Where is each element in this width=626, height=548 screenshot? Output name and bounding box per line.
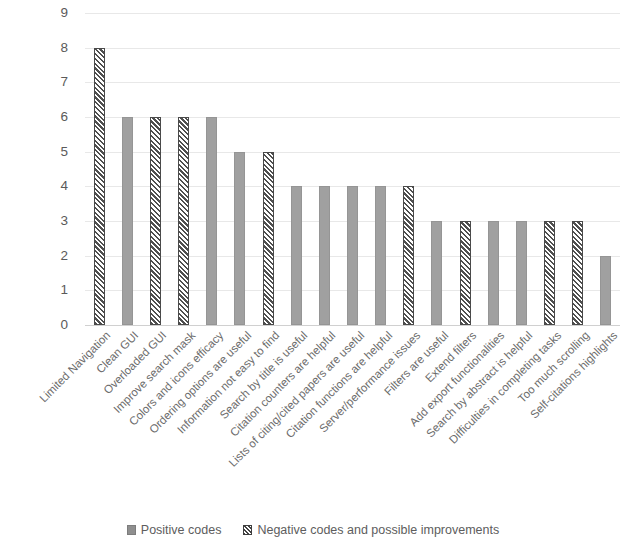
bar-chart: 0123456789 Limited NavigationClean GUIOv… (0, 0, 626, 548)
bar (263, 152, 274, 325)
legend-item[interactable]: Positive codes (127, 524, 222, 537)
y-axis-tick: 3 (60, 214, 68, 228)
y-axis-tick: 5 (60, 145, 68, 159)
y-axis-tick: 7 (60, 76, 68, 90)
legend-label: Negative codes and possible improvements (257, 524, 499, 537)
bar (403, 186, 414, 325)
bar (600, 256, 611, 325)
bar (234, 152, 245, 325)
bar (291, 186, 302, 325)
bar (206, 117, 217, 325)
bar-group (85, 13, 620, 325)
y-axis-tick: 6 (60, 110, 68, 124)
bar (431, 221, 442, 325)
plot-area (85, 13, 620, 325)
y-axis-tick: 8 (60, 41, 68, 55)
y-axis-tick: 2 (60, 249, 68, 263)
bar (488, 221, 499, 325)
bar (460, 221, 471, 325)
y-axis: 0123456789 (0, 13, 78, 325)
legend-label: Positive codes (141, 524, 222, 537)
bar (347, 186, 358, 325)
bar (516, 221, 527, 325)
legend-swatch-negative-icon (243, 525, 252, 535)
bar (544, 221, 555, 325)
chart-legend: Positive codesNegative codes and possibl… (0, 524, 626, 537)
bar (150, 117, 161, 325)
bar (178, 117, 189, 325)
y-axis-tick: 0 (60, 318, 68, 332)
legend-swatch-positive-icon (127, 525, 136, 535)
bar (319, 186, 330, 325)
bar (122, 117, 133, 325)
bar (375, 186, 386, 325)
x-axis-labels: Limited NavigationClean GUIOverloaded GU… (85, 325, 620, 500)
y-axis-tick: 9 (60, 6, 68, 20)
bar (572, 221, 583, 325)
y-axis-tick: 4 (60, 180, 68, 194)
y-axis-tick: 1 (60, 284, 68, 298)
bar (94, 48, 105, 325)
legend-item[interactable]: Negative codes and possible improvements (243, 524, 499, 537)
